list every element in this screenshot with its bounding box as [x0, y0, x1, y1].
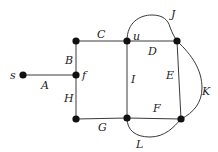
node-label-f: f — [81, 69, 88, 82]
edge-label-C: C — [97, 28, 106, 41]
node-top-right — [173, 37, 180, 44]
edge-label-J: J — [169, 8, 176, 21]
edge-label-H: H — [63, 92, 74, 105]
edge-label-G: G — [98, 121, 107, 134]
node-label-u: u — [133, 30, 140, 43]
node-s — [19, 71, 26, 78]
edge-L — [127, 118, 181, 137]
node-top-left — [72, 37, 79, 44]
edge-label-A: A — [40, 79, 49, 92]
node-u — [123, 37, 130, 44]
edge-label-I: I — [130, 73, 136, 86]
edge-label-E: E — [165, 69, 174, 82]
edge-label-B: B — [64, 54, 73, 67]
graph-diagram: s f u A B C D E F G H I J K L — [0, 0, 218, 152]
edge-label-D: D — [147, 45, 157, 58]
edge-G — [76, 118, 127, 119]
edge-E — [177, 41, 181, 119]
node-label-s: s — [10, 69, 16, 82]
node-f — [72, 71, 79, 78]
edge-F — [127, 118, 181, 119]
edge-label-L: L — [135, 138, 143, 151]
node-bottom-right — [177, 115, 184, 122]
node-bottom-middle — [123, 114, 130, 121]
edge-label-K: K — [201, 85, 211, 98]
edge-label-F: F — [152, 102, 161, 115]
node-bottom-left — [72, 115, 79, 122]
